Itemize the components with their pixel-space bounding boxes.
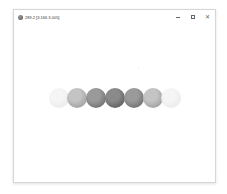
close-icon: ✕ [205, 14, 210, 20]
close-button[interactable]: ✕ [200, 10, 215, 24]
title-bar[interactable]: 289.2 [3.166 3.005] ✕ [14, 10, 215, 24]
maximize-button[interactable] [185, 10, 200, 24]
window-title: 289.2 [3.166 3.005] [25, 15, 59, 20]
maximize-icon [191, 15, 195, 19]
sphere [143, 88, 163, 108]
sphere [86, 88, 106, 108]
minimize-button[interactable] [170, 10, 185, 24]
render-canvas[interactable] [14, 24, 215, 182]
sphere-app-icon [18, 15, 23, 20]
app-window: 289.2 [3.166 3.005] ✕ [13, 9, 216, 183]
canvas-speck [138, 67, 139, 68]
sphere [67, 88, 87, 108]
sphere [124, 88, 144, 108]
minimize-icon [176, 17, 180, 18]
sphere [49, 88, 69, 108]
sphere [105, 88, 125, 108]
window-controls: ✕ [170, 10, 215, 24]
sphere [161, 88, 181, 108]
